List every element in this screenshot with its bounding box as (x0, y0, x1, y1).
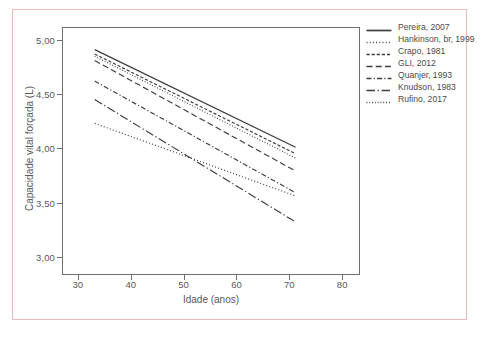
legend-item: Pereira, 2007 (366, 22, 478, 33)
plot-panel (62, 27, 360, 275)
x-axis-tick-labels: 304050607080 (62, 279, 360, 293)
legend-item: Hankinson, br, 1999 (366, 34, 478, 45)
legend-label: Knudson, 1983 (398, 82, 456, 93)
x-tick-label: 40 (125, 279, 136, 290)
plot-area (63, 28, 359, 274)
x-axis-title: Idade (anos) (62, 294, 360, 305)
y-tick-mark (57, 148, 62, 149)
x-tick-label: 30 (73, 279, 84, 290)
series-line (95, 54, 296, 154)
legend-label: Crapo, 1981 (398, 46, 445, 57)
legend-label: Pereira, 2007 (398, 22, 450, 33)
legend-line-swatch (366, 22, 392, 33)
legend-label: GLI, 2012 (398, 58, 436, 69)
series-line (95, 61, 296, 172)
y-tick-mark (57, 94, 62, 95)
chart-figure: 3,003,504,004,505,00 304050607080 Idade … (0, 0, 482, 340)
y-tick-label: 3,50 (36, 197, 55, 208)
y-tick-mark (57, 257, 62, 258)
legend-item: Knudson, 1983 (366, 82, 478, 93)
y-tick-label: 5,00 (36, 35, 55, 46)
series-lines (63, 28, 359, 274)
x-tick-mark (184, 275, 185, 280)
legend-label: Quanjer, 1993 (398, 70, 452, 81)
x-tick-mark (78, 275, 79, 280)
x-tick-mark (289, 275, 290, 280)
y-tick-mark (57, 40, 62, 41)
series-line (95, 123, 296, 196)
x-tick-mark (131, 275, 132, 280)
y-tick-label: 4,50 (36, 89, 55, 100)
series-line (95, 100, 296, 222)
x-tick-label: 50 (178, 279, 189, 290)
legend-line-swatch (366, 70, 392, 81)
legend-item: Crapo, 1981 (366, 46, 478, 57)
legend-label: Hankinson, br, 1999 (398, 34, 474, 45)
y-tick-label: 3,00 (36, 251, 55, 262)
y-axis-title: Capacidade vital forçada (L) (24, 49, 35, 249)
y-tick-label: 4,00 (36, 143, 55, 154)
legend-line-swatch (366, 82, 392, 93)
x-tick-label: 60 (231, 279, 242, 290)
x-tick-mark (342, 275, 343, 280)
legend-line-swatch (366, 46, 392, 57)
legend-line-swatch (366, 94, 392, 105)
legend-item: GLI, 2012 (366, 58, 478, 69)
x-tick-label: 70 (284, 279, 295, 290)
legend-line-swatch (366, 34, 392, 45)
legend-label: Rufino, 2017 (398, 94, 447, 105)
legend-line-swatch (366, 58, 392, 69)
x-tick-label: 80 (337, 279, 348, 290)
x-tick-mark (236, 275, 237, 280)
y-tick-mark (57, 203, 62, 204)
series-line (95, 56, 296, 158)
legend-item: Quanjer, 1993 (366, 70, 478, 81)
chart-legend: Pereira, 2007Hankinson, br, 1999Crapo, 1… (366, 22, 478, 106)
legend-item: Rufino, 2017 (366, 94, 478, 105)
